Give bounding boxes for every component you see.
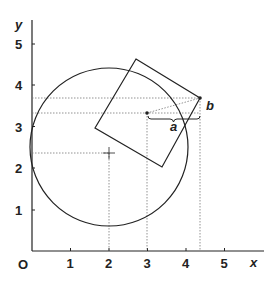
label-a: a bbox=[170, 119, 177, 134]
y-tick-2: 2 bbox=[15, 161, 22, 176]
x-tick-4: 4 bbox=[182, 256, 190, 271]
y-tick-5: 5 bbox=[15, 37, 22, 52]
y-tick-3: 3 bbox=[15, 120, 22, 135]
label-b: b bbox=[206, 98, 214, 113]
y-tick-4: 4 bbox=[15, 78, 23, 93]
x-axis-label: x bbox=[249, 255, 258, 270]
center-cross bbox=[103, 147, 115, 159]
coordinate-diagram: a b y x O 1 2 3 4 5 1 2 3 4 5 bbox=[0, 0, 276, 284]
origin-label: O bbox=[18, 257, 28, 272]
x-tick-2: 2 bbox=[105, 256, 112, 271]
point-b bbox=[198, 96, 202, 100]
y-tick-1: 1 bbox=[15, 203, 22, 218]
point-a-start bbox=[145, 111, 149, 115]
y-axis-label: y bbox=[14, 17, 23, 32]
x-tick-5: 5 bbox=[221, 256, 228, 271]
x-tick-3: 3 bbox=[144, 256, 151, 271]
x-tick-1: 1 bbox=[67, 256, 74, 271]
